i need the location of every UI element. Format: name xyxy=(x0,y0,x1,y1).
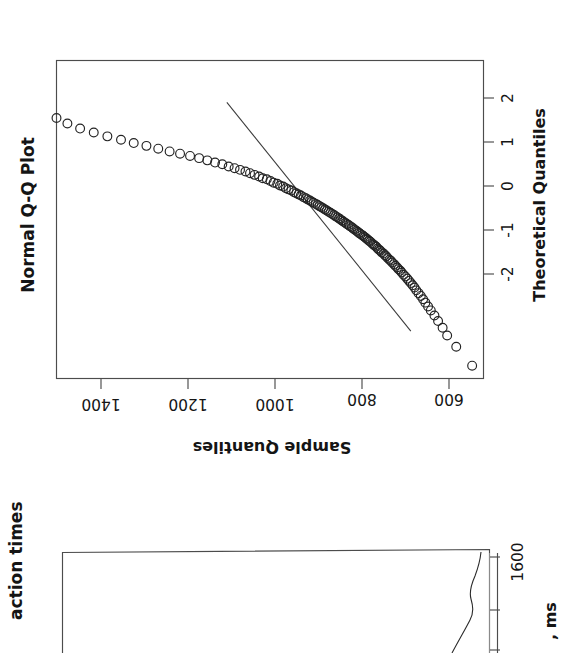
qq-point xyxy=(452,342,461,351)
qq-line xyxy=(227,102,411,331)
qq-point xyxy=(230,164,239,173)
qq-point xyxy=(203,156,212,165)
tick-label-sq-600: 600 xyxy=(434,390,464,408)
qq-plot-panel: Normal Q-Q Plot 2 1 0 -1 -2 Theoretical … xyxy=(0,0,577,500)
tick-label-sq-1000: 1000 xyxy=(255,395,294,413)
qq-point xyxy=(468,361,477,370)
qq-point xyxy=(89,128,98,137)
qq-point xyxy=(142,141,151,150)
density-plot-frame xyxy=(63,550,490,653)
qq-point xyxy=(129,139,138,148)
density-plot-title: action times xyxy=(6,501,26,620)
sample-quantiles-axis: 1400 1200 1000 800 600 Sample Quantiles xyxy=(81,379,464,458)
qq-plot-svg: Normal Q-Q Plot 2 1 0 -1 -2 Theoretical … xyxy=(0,0,577,500)
qq-point xyxy=(236,165,245,174)
qq-reference-line xyxy=(227,102,411,331)
tick-label-tq-0: 0 xyxy=(499,181,517,191)
qq-data-points xyxy=(52,114,476,371)
qq-point xyxy=(117,135,126,144)
theoretical-quantiles-axis: 2 1 0 -1 -2 Theoretical Quantiles xyxy=(484,93,550,302)
tick-label-sq-800: 800 xyxy=(347,390,377,408)
qq-point xyxy=(103,132,112,141)
qq-point xyxy=(63,119,72,128)
tick-label-sq-1400: 1400 xyxy=(81,395,120,413)
qq-point xyxy=(176,149,185,158)
qq-point xyxy=(186,152,195,161)
qq-plot-frame xyxy=(57,61,484,379)
density-axis-label: , ms xyxy=(541,602,560,640)
density-curve xyxy=(452,552,481,653)
tick-label-tq-neg2: -2 xyxy=(499,266,517,281)
qq-point xyxy=(195,154,204,163)
tick-label-tq-2: 2 xyxy=(499,93,517,103)
density-plot-panel: action times 1600 , ms xyxy=(0,500,577,653)
sample-quantiles-axis-label: Sample Quantiles xyxy=(193,438,352,457)
qq-point xyxy=(165,147,174,156)
tick-label-sq-1200: 1200 xyxy=(168,395,207,413)
qq-point xyxy=(76,124,85,133)
tick-label-tq-neg1: -1 xyxy=(499,222,517,237)
theoretical-quantiles-axis-label: Theoretical Quantiles xyxy=(530,108,549,302)
qq-plot-title: Normal Q-Q Plot xyxy=(18,137,38,293)
density-plot-svg: action times 1600 , ms xyxy=(0,500,577,653)
tick-label-tq-1: 1 xyxy=(499,137,517,147)
qq-point xyxy=(154,144,163,153)
figure-page: Normal Q-Q Plot 2 1 0 -1 -2 Theoretical … xyxy=(0,0,577,653)
tick-label-density-1600: 1600 xyxy=(509,542,527,581)
